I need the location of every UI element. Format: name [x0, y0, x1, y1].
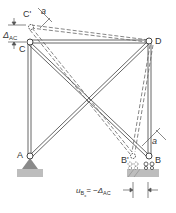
- label-u-bx: uBx= −ΔAC: [76, 186, 111, 198]
- joint-b-prime: [131, 154, 136, 159]
- truss-diagram: C' C D A B B' a a ΔAC uBx= −ΔAC: [0, 0, 176, 213]
- label-c: C: [19, 44, 26, 54]
- ground-left: [17, 169, 43, 177]
- joint-c-prime: [29, 25, 34, 30]
- label-a: A: [17, 150, 23, 160]
- label-b: B: [155, 155, 161, 165]
- label-d: D: [155, 36, 162, 46]
- joint-a: [27, 153, 33, 159]
- members-deflected: [30, 25, 153, 154]
- members-original: [28, 40, 151, 157]
- label-delta-ac: ΔAC: [2, 30, 18, 41]
- u-bx-dimension: [123, 182, 158, 198]
- joint-c: [27, 39, 33, 45]
- roller-support-b-prime: [128, 162, 138, 170]
- label-angle-a-bottom: a: [152, 136, 157, 146]
- label-c-prime: C': [23, 9, 31, 19]
- label-b-prime: B': [121, 155, 129, 165]
- joint-b: [146, 153, 152, 159]
- label-angle-a-top: a: [41, 6, 46, 16]
- ground-right: [127, 169, 159, 177]
- pin-support-a: [22, 158, 38, 169]
- roller-support-b: [144, 162, 154, 170]
- joint-d: [146, 38, 152, 44]
